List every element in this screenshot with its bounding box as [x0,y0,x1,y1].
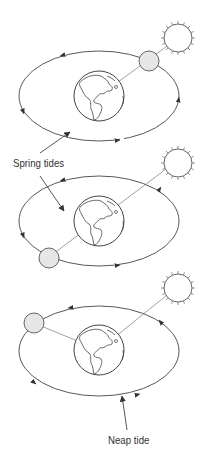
spring-tides-label: Spring tides [13,157,64,169]
panel-spring-new-moon [19,21,195,144]
orbit-arrow-icon [132,394,140,396]
sun-icon [161,21,195,55]
orbit-arrow-icon [30,379,36,384]
earth-icon [74,325,124,375]
neap-label-arrow [122,396,127,430]
sun-icon [161,146,195,180]
spring-label-arrow-top [40,132,70,153]
moon-icon [39,248,59,268]
moon-icon [24,313,44,333]
panel-neap-quarter-moon [19,271,195,396]
earth-icon [74,71,124,121]
sun-icon [161,271,195,305]
neap-tide-label: Neap tide [108,434,149,446]
moon-icon [139,51,159,71]
tides-diagram [0,0,213,473]
earth-icon [74,196,124,246]
